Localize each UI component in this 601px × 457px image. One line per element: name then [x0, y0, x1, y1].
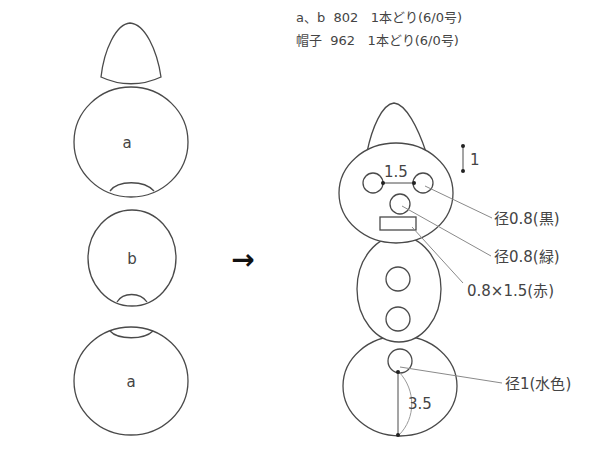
- label-a-top: a: [122, 134, 131, 152]
- assembled-middle-ball: [357, 236, 441, 342]
- label-b: b: [127, 250, 137, 268]
- eye-height-label: 1: [470, 151, 480, 169]
- label-a-bottom: a: [126, 373, 135, 391]
- bottom-distance-label: 3.5: [408, 395, 432, 413]
- eye-spacing-label: 1.5: [384, 163, 408, 181]
- callout-mouth: 0.8×1.5(赤): [467, 282, 554, 300]
- arrow-icon: →: [231, 243, 254, 276]
- leader-button: [400, 367, 502, 383]
- diagram-canvas: a b a → 1.5 1 3.5 径0.8(黒) 径0.8(緑) 0.8×1.…: [0, 0, 601, 457]
- belly-button: [388, 349, 412, 373]
- assembled-bottom-ball: [343, 336, 457, 436]
- callout-nose: 径0.8(緑): [494, 248, 560, 266]
- callout-eyes: 径0.8(黒): [494, 210, 560, 228]
- piece-hat: [101, 23, 161, 84]
- assembled-head: [339, 143, 453, 243]
- callout-button: 径1(水色): [505, 375, 571, 393]
